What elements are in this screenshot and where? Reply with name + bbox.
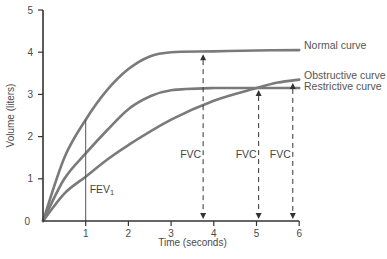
x-tick-label: 6 (296, 228, 302, 239)
plot-area (43, 50, 299, 221)
labels: Normal curveObstructive curveRestrictive… (90, 39, 386, 197)
y-tick-label: 0 (24, 216, 30, 227)
fev1-label: FEV1 (90, 183, 115, 197)
legend-restrictive-curve: Restrictive curve (304, 80, 382, 92)
y-tick-label: 3 (27, 89, 33, 100)
y-tick-label: 4 (27, 47, 33, 58)
y-tick-label: 5 (27, 5, 33, 16)
y-axis-title: Volume (liters) (5, 84, 16, 148)
y-tick-label: 1 (27, 173, 33, 184)
obstructive-curve-line (43, 80, 299, 221)
spirometry-chart: 012345123456Time (seconds)Volume (liters… (0, 0, 387, 259)
y-tick-label: 2 (27, 131, 33, 142)
x-tick-label: 1 (83, 228, 89, 239)
fvc-label: FVC (236, 148, 257, 160)
arrow-down-icon (200, 213, 206, 219)
x-tick-label: 5 (254, 228, 260, 239)
normal-curve-line (43, 50, 299, 221)
x-tick-label: 2 (126, 228, 132, 239)
x-axis-title: Time (seconds) (158, 237, 227, 248)
arrow-up-icon (200, 54, 206, 60)
arrow-up-icon (290, 83, 296, 89)
arrow-down-icon (256, 213, 262, 219)
fvc-label: FVC (270, 148, 291, 160)
legend-normal-curve: Normal curve (304, 39, 367, 51)
arrow-down-icon (290, 213, 296, 219)
fvc-label: FVC (180, 148, 201, 160)
arrow-up-icon (256, 90, 262, 96)
restrictive-curve-line (43, 88, 299, 221)
